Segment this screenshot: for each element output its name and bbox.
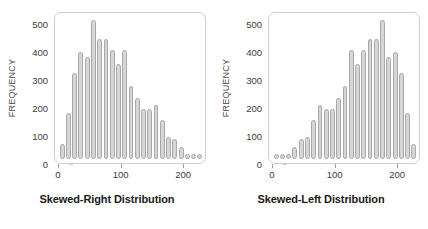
chart-panel-skewed-left: FREQUENCY 0100200300400500 0100200 Skewe… [214,0,428,229]
histogram-bar [318,105,323,159]
histogram-bar [179,147,184,159]
histogram-bar [380,20,385,159]
y-tick-label: 500 [32,19,48,30]
bar-series-right [273,15,415,159]
y-tick-label: 300 [246,75,262,86]
histogram-bar [197,154,202,159]
y-tick-label: 0 [257,159,262,170]
y-tick-label: 200 [246,103,262,114]
plot-area-left [54,12,206,164]
histogram-bar [399,73,404,159]
histogram-bar [280,154,285,159]
histogram-bar [299,139,304,159]
x-tick-mark [121,164,122,168]
histogram-bar [374,39,379,159]
x-tick-label: 200 [175,169,191,180]
histogram-bar [368,39,373,159]
y-tick-label: 300 [32,75,48,86]
chart-caption-right: Skewed-Left Distribution [214,193,428,205]
x-tick-mark [58,164,59,168]
histogram-bar [185,154,190,159]
x-tick-label: 0 [55,169,60,180]
figure-root: FREQUENCY 0100200300400500 0100200 Skewe… [0,0,428,229]
y-axis-title-right-text: FREQUENCY [221,58,231,116]
y-axis-title-right: FREQUENCY [218,0,234,175]
histogram-bar [355,64,360,159]
histogram-bar [305,137,310,159]
histogram-bar [154,105,159,159]
chart-caption-left: Skewed-Right Distribution [0,193,214,205]
histogram-bar [129,86,134,159]
y-tick-label: 400 [32,47,48,58]
histogram-bar [172,139,177,159]
histogram-bar [85,57,90,159]
histogram-bar [274,154,279,159]
histogram-bar [393,52,398,159]
plot-area-right [268,12,420,164]
histogram-bar [411,144,416,159]
histogram-bar [60,144,65,159]
histogram-bar [336,98,341,159]
histogram-bar [72,73,77,159]
histogram-bar [361,50,366,159]
histogram-bar [386,57,391,159]
histogram-bar [191,154,196,159]
histogram-bar [91,20,96,159]
histogram-bar [330,109,335,159]
x-axis-left: 0100200 [54,164,206,184]
histogram-bar [349,50,354,159]
x-tick-mark [272,164,273,168]
x-tick-label: 200 [389,169,405,180]
histogram-bar [405,113,410,159]
y-tick-label: 100 [246,131,262,142]
histogram-bar [286,154,291,159]
histogram-bar [104,39,109,159]
histogram-bar [66,113,71,159]
histogram-bar [135,98,140,159]
histogram-bar [292,147,297,159]
chart-panel-skewed-right: FREQUENCY 0100200300400500 0100200 Skewe… [0,0,214,229]
histogram-bar [343,86,348,159]
histogram-bar [97,39,102,159]
histogram-bar [166,137,171,159]
x-tick-mark [397,164,398,168]
histogram-bar [311,120,316,159]
bar-series-left [59,15,201,159]
y-tick-label: 200 [32,103,48,114]
histogram-bar [116,64,121,159]
y-axis-title-left-text: FREQUENCY [7,58,17,116]
x-tick-label: 0 [269,169,274,180]
histogram-bar [122,50,127,159]
y-axis-ticks-right: 0100200300400500 [234,14,262,162]
histogram-bar [141,109,146,159]
y-tick-label: 0 [43,159,48,170]
histogram-bar [147,109,152,159]
x-axis-right: 0100200 [268,164,420,184]
histogram-bar [78,52,83,159]
histogram-bar [110,50,115,159]
y-axis-title-left: FREQUENCY [4,0,20,175]
x-tick-mark [183,164,184,168]
histogram-bar [160,120,165,159]
y-tick-label: 500 [246,19,262,30]
x-tick-mark [335,164,336,168]
x-tick-label: 100 [113,169,129,180]
y-tick-label: 400 [246,47,262,58]
histogram-bar [324,109,329,159]
x-tick-label: 100 [327,169,343,180]
y-tick-label: 100 [32,131,48,142]
y-axis-ticks-left: 0100200300400500 [20,14,48,162]
